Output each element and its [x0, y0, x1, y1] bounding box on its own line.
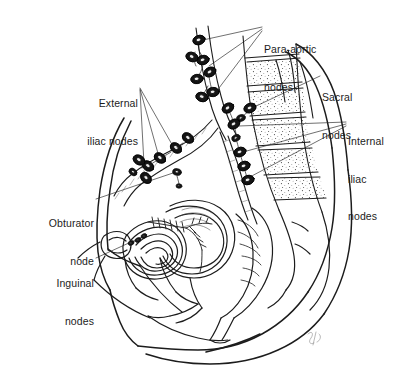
uterus — [160, 200, 235, 308]
label-inguinal-nodes: Inguinal nodes — [0, 252, 94, 352]
label-external-iliac-line-1: External — [0, 97, 138, 110]
label-external-iliac-line-2: iliac nodes — [0, 135, 138, 148]
sacrum — [268, 210, 330, 310]
label-internal-iliac-line-1: Internal — [348, 135, 384, 148]
label-inguinal-line-2: nodes — [0, 315, 94, 328]
label-para-aortic-line-2: nodes — [264, 81, 316, 94]
label-para-aortic-line-1: Para-aortic — [264, 43, 316, 56]
rectum — [210, 208, 273, 343]
label-external-iliac-nodes: External iliac nodes — [0, 72, 138, 172]
label-obturator-line-1: Obturator — [0, 217, 94, 230]
label-internal-iliac-line-3: nodes — [348, 210, 384, 223]
label-sacral-line-1: Sacral — [322, 91, 352, 104]
para-aortic-chain — [185, 34, 220, 103]
label-para-aortic-nodes: Para-aortic nodes — [264, 18, 316, 118]
label-internal-iliac-line-2: iliac — [348, 173, 384, 186]
artist-signature — [308, 332, 320, 345]
anatomical-figure: Para-aortic nodes Sacral nodes Internal … — [0, 0, 404, 372]
label-internal-iliac-nodes: Internal iliac nodes — [348, 110, 384, 248]
bladder — [123, 221, 186, 300]
label-inguinal-line-1: Inguinal — [0, 277, 94, 290]
obturator-chain — [172, 168, 182, 189]
